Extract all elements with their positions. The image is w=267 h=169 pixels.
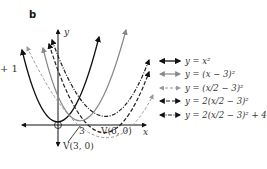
x-axis-label: x bbox=[143, 127, 148, 137]
legend-item: y = x² bbox=[158, 54, 267, 68]
y-axis-label: y bbox=[64, 27, 69, 37]
legend-item: y = (x − 3)² bbox=[158, 68, 267, 82]
legend-swatch-icon bbox=[158, 111, 182, 119]
vertex-label-6-0: V(6, 0) bbox=[101, 126, 132, 136]
legend-swatch-icon bbox=[158, 57, 182, 65]
legend-item: y = (x/2 − 3)² bbox=[158, 81, 267, 95]
legend-swatch-icon bbox=[158, 84, 182, 92]
legend-swatch-icon bbox=[158, 97, 182, 105]
legend: y = x² y = (x − 3)² y = (x/2 − 3)² y = 2… bbox=[158, 54, 267, 122]
tick-label-3: 3 bbox=[79, 126, 85, 136]
curve-shift-3 bbox=[43, 30, 126, 121]
curve-x-squared bbox=[22, 37, 99, 122]
figure: b + 1 y x 3 V(6, 0) bbox=[0, 0, 267, 169]
legend-item: y = 2(x/2 − 3)² + 4 bbox=[158, 108, 267, 122]
vertex-label-3-0: V(3, 0) bbox=[63, 141, 94, 151]
legend-item: y = 2(x/2 − 3)² bbox=[158, 95, 267, 109]
legend-swatch-icon bbox=[158, 70, 182, 78]
